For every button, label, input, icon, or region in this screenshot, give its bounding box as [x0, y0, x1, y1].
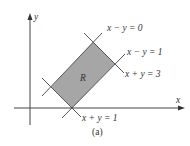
label-x-plus-y-3: x + y = 3 — [124, 69, 161, 79]
label-x-minus-y-0: x − y = 0 — [106, 23, 143, 33]
region-diagram: y x R x − y = 0 x − y = 1 x + y = 3 x + … — [0, 0, 190, 146]
label-x-minus-y-1: x − y = 1 — [126, 47, 163, 57]
y-axis-arrow-icon — [28, 13, 33, 20]
y-axis-label: y — [33, 12, 39, 22]
x-axis-label: x — [175, 95, 181, 105]
label-x-plus-y-1: x + y = 1 — [81, 113, 118, 123]
region-label: R — [79, 73, 86, 83]
x-axis-arrow-icon — [178, 106, 185, 111]
figure-caption: (a) — [92, 127, 103, 138]
